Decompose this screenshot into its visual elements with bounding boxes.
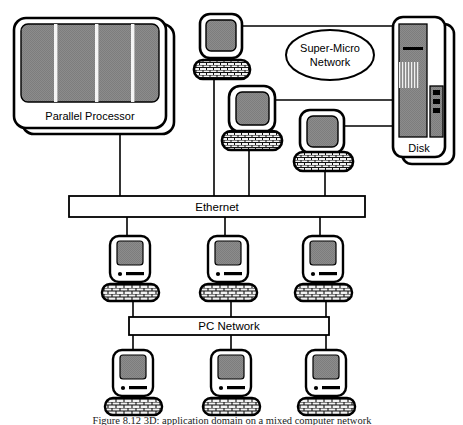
node-workstation-middle[interactable] (222, 86, 282, 150)
parallel-processor-screen (21, 24, 159, 102)
node-workstation-lower[interactable] (294, 110, 353, 171)
mac-floppy-slot (319, 272, 337, 275)
node-workstation-top[interactable] (194, 14, 250, 79)
mac-port-dot (118, 272, 122, 276)
mac-floppy-slot (126, 272, 144, 275)
workstation-lower-screen (307, 116, 338, 147)
parallel-processor-label: Parallel Processor (45, 110, 135, 122)
mac-port-dot (216, 272, 220, 276)
workstation-top-screen (206, 20, 236, 51)
mac-screen (117, 241, 143, 265)
workstation-lower-keyboard (294, 152, 353, 171)
node-parallel-processor[interactable]: Parallel Processor (14, 18, 174, 134)
node-pc-network-bus[interactable]: PC Network (129, 317, 329, 335)
workstation-top-keyboard (194, 60, 250, 79)
mac-port-dot (314, 386, 318, 390)
disk-vent-stripes (399, 62, 419, 88)
mac-port-dot (311, 272, 315, 276)
mac-ethernet-2[interactable] (200, 236, 257, 301)
node-ethernet-bus[interactable]: Ethernet (69, 196, 365, 217)
disk-slot-bar (403, 47, 423, 50)
workstation-middle-screen (236, 92, 269, 125)
mac-keyboard (102, 284, 159, 301)
mac-port-dot (121, 386, 125, 390)
node-disk[interactable]: Disk (393, 17, 454, 164)
workstation-middle-keyboard (222, 131, 282, 150)
mac-screen (310, 241, 336, 265)
mac-keyboard (203, 398, 260, 415)
mac-screen (120, 355, 146, 379)
mac-pcnet-3[interactable] (298, 350, 355, 415)
mac-keyboard (295, 284, 352, 301)
mac-floppy-slot (322, 386, 340, 389)
disk-indicator-lights (433, 90, 440, 113)
mac-pcnet-2[interactable] (203, 350, 260, 415)
mac-keyboard (298, 398, 355, 415)
super-micro-network-ellipse (286, 30, 374, 80)
mac-screen (313, 355, 339, 379)
mac-floppy-slot (129, 386, 147, 389)
ethernet-label: Ethernet (195, 201, 239, 213)
node-super-micro-network[interactable]: Super-Micro Network (286, 30, 374, 80)
mac-keyboard (200, 284, 257, 301)
figure-caption: Figure 8.12 3D: application domain on a … (93, 415, 373, 425)
mac-screen (218, 355, 244, 379)
mac-ethernet-3[interactable] (295, 236, 352, 301)
pc-network-label: PC Network (198, 320, 260, 332)
mac-floppy-slot (227, 386, 245, 389)
mac-screen (215, 241, 241, 265)
disk-label: Disk (408, 142, 430, 154)
super-micro-network-label-line1: Super-Micro (300, 42, 360, 54)
mac-keyboard (105, 398, 162, 415)
super-micro-network-label-line2: Network (310, 56, 351, 68)
mac-ethernet-1[interactable] (102, 236, 159, 301)
network-diagram: Parallel Processor Super-Micro Network (0, 0, 463, 425)
mac-pcnet-1[interactable] (105, 350, 162, 415)
mac-port-dot (219, 386, 223, 390)
mac-floppy-slot (224, 272, 242, 275)
